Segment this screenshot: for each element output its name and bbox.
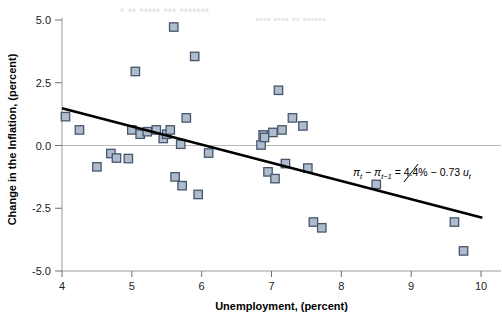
data-point-marker <box>260 133 268 141</box>
x-axis-tick-label: 8 <box>338 280 344 292</box>
x-axis-tick-label: 7 <box>268 280 274 292</box>
data-point-marker <box>459 247 467 255</box>
page-bleed-through-artifacts: • •• ••••• ••• ••••••••••• •••• •• •••••… <box>120 3 326 25</box>
x-axis-tick-label: 6 <box>199 280 205 292</box>
data-point-marker <box>299 122 307 130</box>
data-point-marker <box>269 128 277 136</box>
data-point-marker <box>372 180 380 188</box>
data-point-marker <box>124 154 132 162</box>
data-point-marker <box>278 126 286 134</box>
phillips-curve-scatter-chart: • •• ••••• ••• ••••••••••• •••• •• •••••… <box>0 0 502 331</box>
scatter-plot-figure: • •• ••••• ••• ••••••••••• •••• •• •••••… <box>0 0 502 331</box>
data-point-marker <box>93 163 101 171</box>
data-point-marker <box>450 218 458 226</box>
axis-titles: Unemployment, (percent)Change in the Inf… <box>6 53 348 312</box>
data-point-marker <box>271 174 279 182</box>
data-point-marker <box>190 52 198 60</box>
data-point-marker <box>171 173 179 181</box>
data-point-marker <box>194 190 202 198</box>
data-point-marker <box>75 126 83 134</box>
y-axis: -5.0-2.50.02.55.0 <box>32 14 62 277</box>
bleed-through-text: • •• ••••• ••• ••••••• <box>120 3 209 17</box>
x-axis-tick-label: 5 <box>129 280 135 292</box>
y-axis-tick-label: -5.0 <box>32 265 51 277</box>
x-axis: 45678910 <box>59 271 501 292</box>
x-axis-title: Unemployment, (percent) <box>215 300 348 312</box>
data-points-group <box>61 23 467 255</box>
regression-equation-label: πt − πt−1 = 4.4% − 0.73 ut <box>353 166 472 181</box>
y-axis-title: Change in the Inflation, (percent) <box>6 53 18 225</box>
y-axis-tick-label: 2.5 <box>36 77 51 89</box>
y-axis-tick-label: -2.5 <box>32 202 51 214</box>
equation-annotation: πt − πt−1 = 4.4% − 0.73 ut <box>353 164 472 182</box>
data-point-marker <box>204 149 212 157</box>
data-point-marker <box>318 224 326 232</box>
data-point-marker <box>288 114 296 122</box>
x-axis-tick-label: 10 <box>475 280 487 292</box>
data-point-marker <box>309 218 317 226</box>
data-point-marker <box>182 114 190 122</box>
data-point-marker <box>131 67 139 75</box>
x-axis-tick-label: 4 <box>59 280 65 292</box>
data-point-marker <box>61 112 69 120</box>
data-point-marker <box>274 86 282 94</box>
bleed-through-text: •••• •••• •• •••••• <box>255 13 326 25</box>
y-axis-tick-label: 0.0 <box>36 140 51 152</box>
y-axis-tick-label: 5.0 <box>36 14 51 26</box>
data-point-marker <box>170 23 178 31</box>
data-point-marker <box>178 181 186 189</box>
data-point-marker <box>166 126 174 134</box>
data-point-marker <box>112 154 120 162</box>
x-axis-tick-label: 9 <box>408 280 414 292</box>
